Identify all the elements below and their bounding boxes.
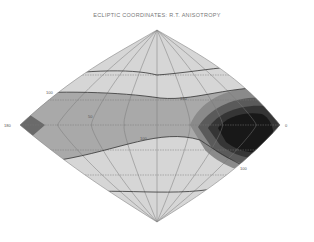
contour-label: 100	[140, 136, 147, 141]
contour-label: 50	[88, 114, 93, 119]
contour-label: 100	[240, 166, 247, 171]
left-axis-label: 180	[4, 123, 11, 128]
map-bands	[0, 0, 314, 242]
right-axis-label: 0	[285, 123, 288, 128]
contour-label: 150	[180, 96, 187, 101]
contour-label: 100	[46, 90, 53, 95]
sky-map: 180 0 100 50 100 150 100	[0, 0, 314, 242]
